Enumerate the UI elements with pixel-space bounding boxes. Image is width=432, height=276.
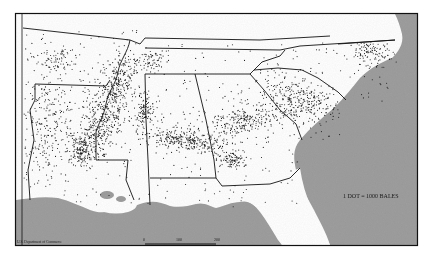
legend-text: 1 DOT = 1000 BALES — [343, 193, 399, 199]
cotton-dot-map: 1 DOT = 1000 BALES 0 100 200 Miles U.S. … — [0, 0, 432, 276]
map-credit: U.S. Department of Commerce — [17, 240, 62, 244]
scale-tick-100: 100 — [176, 237, 182, 242]
scale-tick-0: 0 — [143, 237, 145, 242]
scale-tick-200: 200 — [214, 237, 220, 242]
map-canvas: 1 DOT = 1000 BALES 0 100 200 Miles U.S. … — [0, 0, 432, 276]
